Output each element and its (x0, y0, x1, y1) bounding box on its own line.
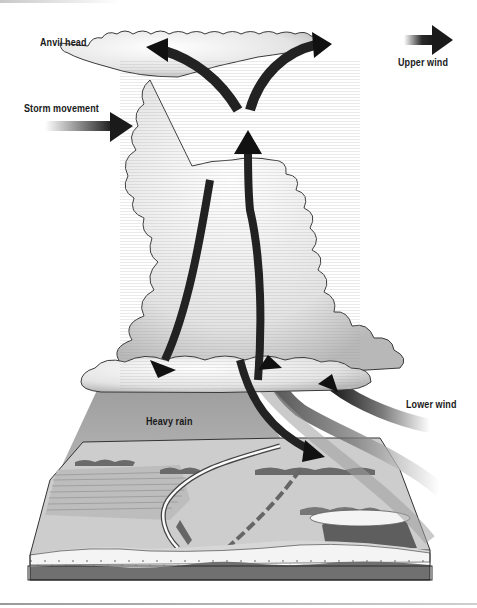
landscape-block (28, 438, 432, 580)
label-anvil-head: Anvil head (40, 37, 87, 49)
label-storm-movement: Storm movement (24, 103, 99, 115)
cloud-shading (120, 60, 360, 390)
label-lower-wind: Lower wind (406, 399, 457, 411)
bottom-divider (0, 603, 477, 605)
outflow-right-arrowhead (312, 32, 332, 58)
storm-movement-arrow (45, 112, 133, 142)
label-heavy-rain: Heavy rain (146, 416, 193, 428)
thunderstorm-diagram (0, 0, 477, 608)
upper-wind-arrow (404, 25, 453, 55)
label-upper-wind: Upper wind (398, 57, 448, 69)
